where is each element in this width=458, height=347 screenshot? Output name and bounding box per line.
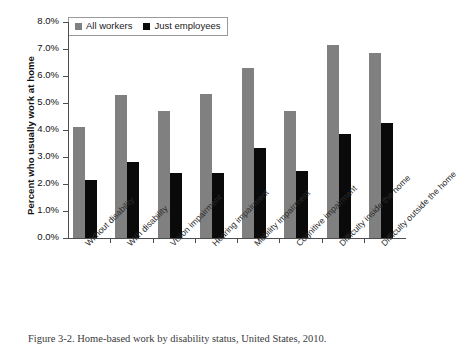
y-axis-tick-label: 5.0%: [37, 96, 59, 107]
x-axis-tick: [364, 238, 365, 243]
figure-caption: Figure 3-2. Home-based work by disabilit…: [28, 333, 418, 344]
bar-group: [68, 22, 110, 238]
y-axis-tick-label: 8.0%: [37, 15, 59, 26]
x-axis-tick: [110, 238, 111, 243]
y-axis-tick-label: 2.0%: [37, 177, 59, 188]
y-axis-tick-label: 4.0%: [37, 123, 59, 134]
bar-all-workers: [73, 127, 85, 238]
x-axis-tick: [195, 238, 196, 243]
y-axis-tick-label: 3.0%: [37, 150, 59, 161]
y-axis-title: Percent who usually work at home: [25, 26, 36, 246]
x-axis-tick: [153, 238, 154, 243]
y-axis-tick-label: 0.0%: [37, 231, 59, 242]
y-axis-tick-label: 7.0%: [37, 42, 59, 53]
x-axis-tick: [237, 238, 238, 243]
x-axis-tick: [279, 238, 280, 243]
x-axis-tick: [322, 238, 323, 243]
bar-just-employees: [381, 123, 393, 238]
y-axis-tick-label: 1.0%: [37, 204, 59, 215]
y-axis-tick: 0.0%: [63, 238, 68, 239]
y-axis-tick-label: 6.0%: [37, 69, 59, 80]
